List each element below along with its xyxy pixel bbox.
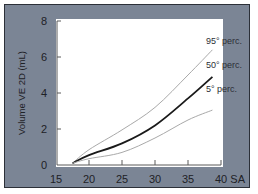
curve-label-p5: 5° perc. bbox=[206, 84, 237, 94]
x-tick-label: 30 bbox=[149, 173, 161, 185]
y-axis-label: Volume VE 2D (mL) bbox=[16, 51, 27, 135]
curve-label-p95: 95° perc. bbox=[206, 36, 242, 46]
x-tick-label: 40 SA bbox=[215, 173, 246, 185]
y-tick-label: 2 bbox=[41, 123, 47, 135]
y-tick-label: 8 bbox=[41, 15, 47, 27]
y-tick-label: 4 bbox=[41, 87, 47, 99]
plot-area bbox=[56, 19, 223, 167]
y-tick-label: 0 bbox=[41, 159, 47, 171]
x-tick-label: 20 bbox=[83, 173, 95, 185]
percentile-chart: 02468152025303540 SA 95° perc.50° perc.5… bbox=[0, 0, 258, 194]
x-tick-label: 15 bbox=[50, 173, 62, 185]
x-tick-label: 35 bbox=[182, 173, 194, 185]
y-tick-label: 6 bbox=[41, 51, 47, 63]
curve-labels: 95° perc.50° perc.5° perc. bbox=[206, 36, 242, 94]
curve-label-p50: 50° perc. bbox=[206, 60, 242, 70]
x-tick-label: 25 bbox=[116, 173, 128, 185]
